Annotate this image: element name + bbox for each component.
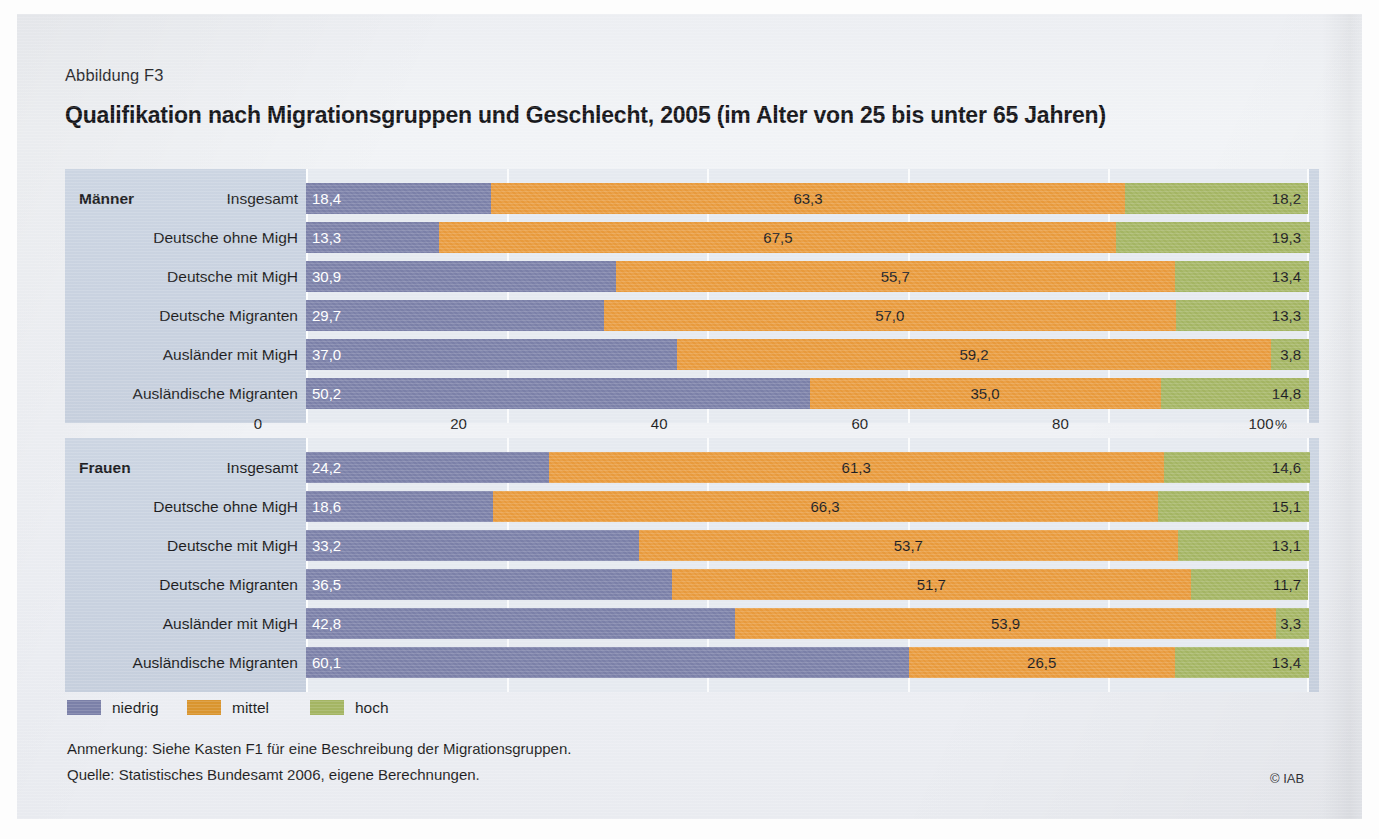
bar-value-mittel: 67,5 [763, 222, 792, 253]
figure-title: Qualifikation nach Migrationsgruppen und… [65, 102, 1106, 129]
bar-segment-niedrig [306, 261, 616, 292]
bar-value-hoch: 14,8 [1272, 378, 1301, 409]
bar-value-hoch: 11,7 [1273, 569, 1301, 600]
bar-row: 18,463,318,2 [306, 183, 1309, 214]
bar-segment-niedrig [306, 608, 735, 639]
bar-value-mittel: 55,7 [881, 261, 910, 292]
chart-panel-frauen: Frauen InsgesamtDeutsche ohne MigHDeutsc… [65, 438, 1319, 692]
bar-segment-niedrig [306, 452, 549, 483]
axis-tick-0: 0 [254, 415, 262, 432]
bar-value-hoch: 13,4 [1272, 261, 1301, 292]
bar-value-mittel: 53,7 [894, 530, 923, 561]
bar-value-niedrig: 36,5 [312, 569, 341, 600]
bar-value-mittel: 61,3 [842, 452, 871, 483]
category-label: Insgesamt [226, 452, 298, 483]
category-label: Deutsche mit MigH [167, 530, 298, 561]
bar-value-hoch: 15,1 [1272, 491, 1301, 522]
bar-value-niedrig: 13,3 [312, 222, 341, 253]
scan-shadow [1322, 14, 1362, 819]
bar-segment-niedrig [306, 300, 604, 331]
bar-value-mittel: 63,3 [793, 183, 822, 214]
bar-value-niedrig: 29,7 [312, 300, 341, 331]
bar-segment-niedrig [306, 647, 909, 678]
bar-value-hoch: 13,3 [1272, 300, 1301, 331]
bar-row: 36,551,711,7 [306, 569, 1309, 600]
bar-row: 60,126,513,4 [306, 647, 1309, 678]
bar-value-niedrig: 18,4 [312, 183, 341, 214]
bar-value-mittel: 51,7 [917, 569, 946, 600]
bar-value-mittel: 59,2 [959, 339, 988, 370]
bar-row: 50,235,014,8 [306, 378, 1309, 409]
category-label: Deutsche Migranten [159, 300, 298, 331]
plot-area-maenner: 18,463,318,213,367,519,330,955,713,429,7… [306, 169, 1309, 423]
bar-value-niedrig: 50,2 [312, 378, 341, 409]
axis-tick-80: 80 [1052, 415, 1069, 432]
bar-segment-niedrig [306, 569, 672, 600]
bar-value-niedrig: 24,2 [312, 452, 341, 483]
bar-value-hoch: 3,3 [1280, 608, 1301, 639]
bar-value-hoch: 13,1 [1272, 530, 1301, 561]
category-label: Deutsche Migranten [159, 569, 298, 600]
bar-row: 29,757,013,3 [306, 300, 1309, 331]
axis-unit-label: % [1275, 417, 1287, 432]
bar-row: 33,253,713,1 [306, 530, 1309, 561]
panel-group-label-maenner: Männer [79, 190, 134, 208]
figure-number: Abbildung F3 [65, 66, 163, 85]
category-label: Ausländer mit MigH [163, 608, 298, 639]
bar-segment-niedrig [306, 339, 677, 370]
category-label: Ausländer mit MigH [163, 339, 298, 370]
legend-swatch-icon [310, 700, 344, 715]
legend-swatch-icon [67, 700, 101, 715]
category-label: Deutsche mit MigH [167, 261, 298, 292]
bar-value-mittel: 26,5 [1027, 647, 1056, 678]
figure-source: Quelle: Statistisches Bundesamt 2006, ei… [67, 766, 480, 783]
figure-page: Abbildung F3 Qualifikation nach Migratio… [0, 0, 1379, 839]
x-axis: 020406080100% [258, 415, 1261, 438]
bar-value-hoch: 18,2 [1272, 183, 1301, 214]
axis-tick-20: 20 [450, 415, 467, 432]
legend-label: niedrig [112, 697, 159, 719]
scanned-sheet: Abbildung F3 Qualifikation nach Migratio… [17, 14, 1362, 819]
category-label: Deutsche ohne MigH [153, 491, 298, 522]
bar-value-niedrig: 60,1 [312, 647, 341, 678]
axis-tick-40: 40 [651, 415, 668, 432]
bar-value-niedrig: 42,8 [312, 608, 341, 639]
category-label: Ausländische Migranten [133, 647, 298, 678]
bar-value-hoch: 13,4 [1272, 647, 1301, 678]
copyright-notice: © IAB [1270, 771, 1304, 786]
legend-label: mittel [232, 697, 269, 719]
panel-group-label-frauen: Frauen [79, 459, 131, 477]
bar-value-mittel: 53,9 [991, 608, 1020, 639]
chart-panel-maenner: Männer InsgesamtDeutsche ohne MigHDeutsc… [65, 169, 1319, 423]
legend-swatch-icon [187, 700, 221, 715]
category-label: Deutsche ohne MigH [153, 222, 298, 253]
bar-segment-niedrig [306, 378, 810, 409]
legend-label: hoch [355, 697, 389, 719]
bar-row: 37,059,23,8 [306, 339, 1309, 370]
bar-value-niedrig: 37,0 [312, 339, 341, 370]
bar-row: 24,261,314,6 [306, 452, 1309, 483]
bar-value-niedrig: 30,9 [312, 261, 341, 292]
category-label: Ausländische Migranten [133, 378, 298, 409]
axis-tick-60: 60 [851, 415, 868, 432]
bar-value-mittel: 66,3 [810, 491, 839, 522]
bar-value-hoch: 19,3 [1272, 222, 1301, 253]
bar-value-niedrig: 18,6 [312, 491, 341, 522]
bar-value-mittel: 57,0 [875, 300, 904, 331]
bar-value-niedrig: 33,2 [312, 530, 341, 561]
bar-value-mittel: 35,0 [970, 378, 999, 409]
bar-row: 42,853,93,3 [306, 608, 1309, 639]
bar-row: 13,367,519,3 [306, 222, 1309, 253]
axis-tick-100: 100 [1248, 415, 1273, 432]
plot-area-frauen: 24,261,314,618,666,315,133,253,713,136,5… [306, 438, 1309, 692]
bar-row: 18,666,315,1 [306, 491, 1309, 522]
bar-value-hoch: 14,6 [1272, 452, 1301, 483]
bar-segment-niedrig [306, 530, 639, 561]
figure-note: Anmerkung: Siehe Kasten F1 für eine Besc… [67, 740, 571, 757]
bar-row: 30,955,713,4 [306, 261, 1309, 292]
bar-value-hoch: 3,8 [1280, 339, 1301, 370]
category-label: Insgesamt [226, 183, 298, 214]
